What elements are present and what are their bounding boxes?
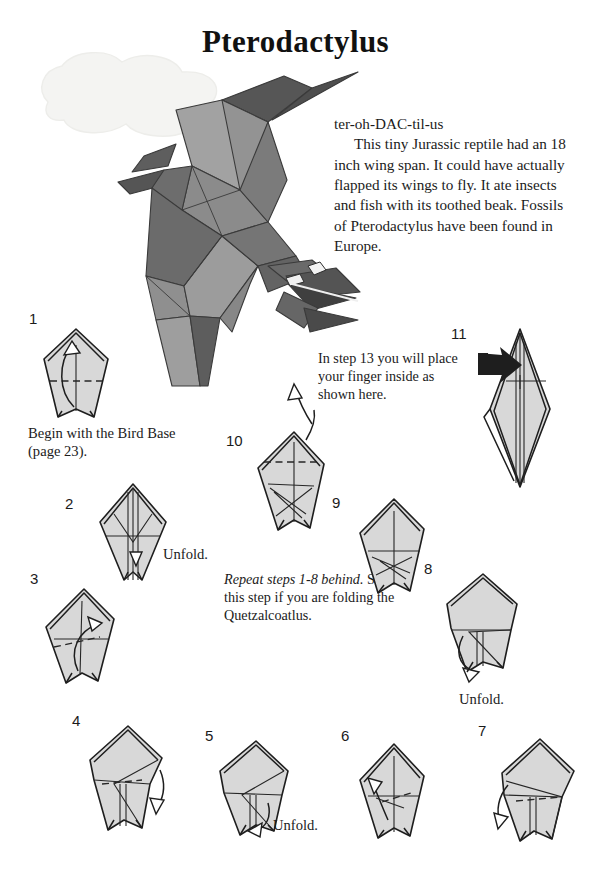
step-number-11: 11: [451, 325, 467, 342]
note-repeat-italic: Repeat steps 1-8 behind.: [224, 571, 363, 587]
step-10-diagram: [250, 428, 336, 540]
step-11-diagram: [470, 325, 566, 493]
origami-instruction-page: Pterodactylus: [0, 0, 591, 883]
caption-step-1: Begin with the Bird Base (page 23).: [28, 424, 178, 460]
step-number-6: 6: [341, 727, 349, 744]
description-body: This tiny Jurassic reptile had an 18 inc…: [334, 134, 578, 256]
step-4-diagram: [80, 722, 174, 840]
step-9-diagram: [352, 495, 434, 603]
note-pointer-arrow: [278, 382, 318, 426]
caption-step-8: Unfold.: [459, 690, 504, 708]
step-number-7: 7: [478, 722, 486, 739]
pronunciation-text: ter-oh-DAC-til-us: [334, 114, 578, 134]
note-step-13: In step 13 you will place your finger in…: [318, 350, 468, 403]
species-description: ter-oh-DAC-til-us This tiny Jurassic rep…: [334, 114, 578, 257]
step-number-2: 2: [65, 495, 73, 512]
step-7-diagram: [490, 735, 582, 851]
step-1-diagram: [36, 325, 116, 425]
page-title: Pterodactylus: [0, 24, 591, 60]
caption-step-2: Unfold.: [163, 545, 208, 563]
step-number-10: 10: [226, 432, 243, 449]
caption-step-5: Unfold.: [273, 816, 318, 834]
step-6-diagram: [352, 740, 436, 848]
step-2-diagram: [92, 480, 174, 590]
step-8-diagram: [437, 570, 533, 686]
step-3-diagram: [38, 585, 124, 691]
